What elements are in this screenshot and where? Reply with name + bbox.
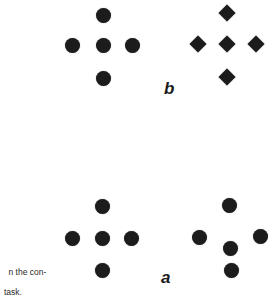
circle-marker bbox=[95, 199, 110, 214]
diamond-marker bbox=[219, 36, 236, 53]
diamond-marker bbox=[248, 36, 265, 53]
circle-marker bbox=[223, 241, 238, 256]
circle-marker bbox=[65, 231, 80, 246]
circle-marker bbox=[192, 230, 207, 245]
circle-marker bbox=[96, 38, 111, 53]
circle-marker bbox=[96, 8, 111, 23]
circle-marker bbox=[65, 38, 80, 53]
circle-marker bbox=[124, 231, 139, 246]
circle-marker bbox=[222, 198, 237, 213]
panel-label-b: b bbox=[164, 80, 174, 97]
caption-line-1: n the con- bbox=[8, 267, 46, 277]
caption-line-2: task. bbox=[0, 287, 46, 297]
diamond-marker bbox=[190, 36, 207, 53]
diamond-marker bbox=[219, 5, 236, 22]
caption-fragment: n the con- task. bbox=[0, 257, 46, 299]
circle-marker bbox=[96, 71, 111, 86]
circle-marker bbox=[95, 263, 110, 278]
circle-marker bbox=[125, 38, 140, 53]
panel-label-a: a bbox=[161, 269, 170, 286]
circle-marker bbox=[95, 231, 110, 246]
diamond-marker bbox=[219, 69, 236, 86]
circle-marker bbox=[253, 229, 268, 244]
circle-marker bbox=[224, 263, 239, 278]
